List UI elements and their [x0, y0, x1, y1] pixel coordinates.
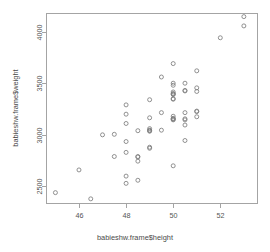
x-tick-label: 50 [170, 211, 178, 220]
y-tick-label: 4000 [35, 25, 44, 41]
x-tick-label: 48 [123, 211, 131, 220]
y-axis-title: babieshw.frame$weight [11, 69, 20, 146]
x-tick-label: 46 [76, 211, 84, 220]
x-tick-label: 52 [217, 211, 225, 220]
scatter-plot-figure: 46485052 2500300035004000 babieshw.frame… [0, 0, 270, 252]
y-tick-label: 3000 [35, 128, 44, 144]
plot-canvas: 46485052 2500300035004000 babieshw.frame… [0, 0, 270, 252]
x-axis-title: babieshw.frame$height [97, 233, 173, 242]
y-tick-label: 3500 [35, 76, 44, 92]
y-tick-label: 2500 [35, 179, 44, 195]
